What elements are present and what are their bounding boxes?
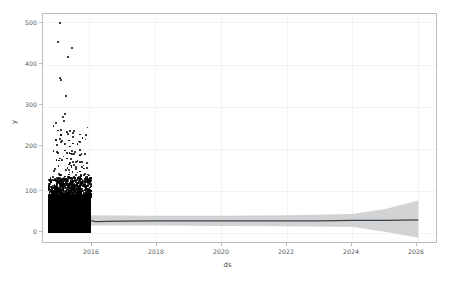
data-point [83,192,85,194]
data-point [51,192,53,194]
data-point [68,140,70,142]
data-point [86,162,88,164]
data-point [83,185,85,187]
data-point [68,169,70,171]
x-tick-mark-2018 [156,243,157,246]
data-point [69,146,71,148]
x-tick-label-2020: 2020 [201,248,241,255]
data-point [71,150,73,152]
data-point [79,176,81,178]
data-point [68,185,70,187]
data-point [79,141,81,143]
x-tick-mark-2016 [91,243,92,246]
data-point [90,184,92,186]
data-point [64,113,66,115]
y-tick-label-0: 0 [3,228,37,235]
data-point [75,174,77,176]
data-point [87,127,89,129]
data-point [67,56,69,58]
data-point [55,140,57,142]
data-point [64,150,66,152]
data-point [63,120,65,122]
data-point [70,158,72,160]
data-point [77,178,79,180]
data-point [65,195,67,197]
data-point [79,134,81,136]
data-point [58,165,60,167]
data-point [57,190,59,192]
data-point [67,133,69,135]
data-point [88,180,90,182]
data-point [65,95,67,97]
data-point [62,116,64,118]
x-tick-label-2024: 2024 [331,248,371,255]
data-point [55,122,57,124]
data-point [88,175,90,177]
data-point [71,47,73,49]
data-point [71,190,73,192]
data-point [61,159,63,161]
data-point [77,143,79,145]
data-point [73,130,75,132]
data-point [72,196,74,198]
data-point [74,190,76,192]
x-tick-mark-2024 [351,243,352,246]
observed-dense-mass [48,196,91,233]
data-point [72,132,74,134]
data-point [81,153,83,155]
data-point [58,160,60,162]
data-point [77,172,79,174]
data-point [54,168,56,170]
x-tick-mark-2020 [221,243,222,246]
data-point [79,161,81,163]
data-point [72,161,74,163]
data-point [75,161,77,163]
data-point [74,195,76,197]
data-point [65,169,67,171]
data-point [66,158,68,160]
data-point [60,79,62,81]
data-point [85,134,87,136]
data-point [71,166,73,168]
data-point [57,130,59,132]
y-tick-label-200: 200 [3,142,37,149]
data-point [86,167,88,169]
data-point [63,185,65,187]
y-tick-label-100: 100 [3,187,37,194]
data-point [63,156,65,158]
data-point [72,188,74,190]
data-point [85,187,87,189]
data-point [58,178,60,180]
data-point [60,129,62,131]
data-point [70,181,72,183]
data-point [48,195,50,197]
data-point [59,22,61,24]
x-tick-label-2016: 2016 [71,248,111,255]
x-tick-mark-2022 [286,243,287,246]
y-tick-label-300: 300 [3,101,37,108]
x-tick-label-2022: 2022 [266,248,306,255]
data-point [72,136,74,138]
data-point [75,166,77,168]
data-point [66,152,68,154]
data-point [73,176,75,178]
data-point [72,143,74,145]
data-point [63,190,65,192]
data-point [86,179,88,181]
data-point [53,170,55,172]
data-point [84,173,86,175]
observed-scatter [43,14,437,243]
data-point [83,165,85,167]
data-point [56,151,58,153]
data-point [79,149,81,151]
data-point [85,139,87,141]
data-point [53,125,55,127]
data-point [64,143,66,145]
data-point [81,161,83,163]
data-point [73,153,75,155]
data-point [79,171,81,173]
prophet-forecast-figure: y ds 500 400 300 200 100 0 2016 2018 202… [0,0,455,281]
data-point [50,186,52,188]
y-tick-label-500: 500 [3,19,37,26]
x-tick-label-2026: 2026 [396,248,436,255]
